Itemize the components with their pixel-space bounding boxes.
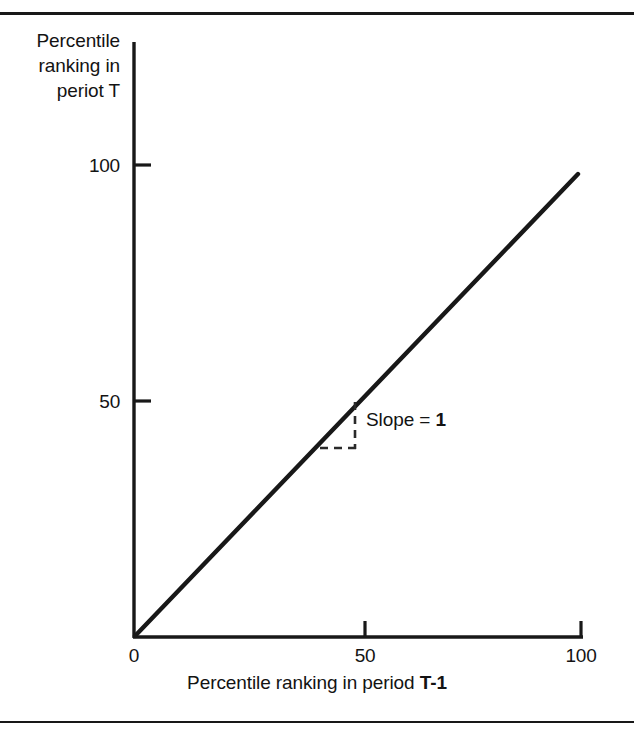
slope-annotation-label: Slope = 1 [366,409,446,431]
y-tick-label-100: 100 [58,155,120,177]
slope-annotation-value: 1 [435,409,445,430]
y-axis-title-line-3: periot T [8,78,120,103]
y-axis-title-line-1: Percentile [8,28,120,53]
slope-annotation-text: Slope = [366,409,435,430]
x-tick-label-50: 50 [335,645,395,667]
x-axis-title-period: T-1 [420,672,447,693]
x-tick-label-100: 100 [551,645,611,667]
figure-container: Percentile ranking in periot T 100 50 0 … [0,0,634,736]
x-axis-title-text: Percentile ranking in period [187,672,420,693]
x-tick-label-0: 0 [104,645,164,667]
x-axis-title: Percentile ranking in period T-1 [0,672,634,694]
y-axis-title-line-2: ranking in [8,53,120,78]
y-tick-label-50: 50 [58,391,120,413]
y-axis-title: Percentile ranking in periot T [8,28,120,103]
identity-line [135,174,578,636]
plot-area [0,0,634,736]
